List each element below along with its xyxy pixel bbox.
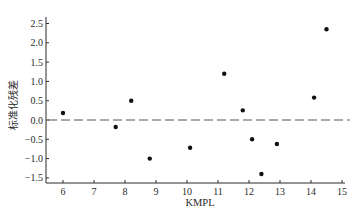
data-point <box>259 172 263 176</box>
data-point <box>275 142 279 146</box>
data-point <box>114 125 118 129</box>
y-tick-label: −1.0 <box>25 153 43 164</box>
y-tick-label: 0.5 <box>31 95 44 106</box>
data-points <box>61 27 329 176</box>
x-tick-label: 15 <box>337 186 347 197</box>
data-point <box>188 146 192 150</box>
y-tick-label: 1.0 <box>31 76 44 87</box>
y-tick-label: 2.0 <box>31 37 44 48</box>
x-tick-label: 8 <box>123 186 128 197</box>
y-axis: 2.52.01.51.00.50.0−0.5−1.0−1.5 <box>25 17 49 183</box>
x-tick-label: 12 <box>244 186 254 197</box>
residual-scatter-chart: 2.52.01.51.00.50.0−0.5−1.0−1.5 678910111… <box>0 0 358 216</box>
y-axis-label: 标准化残差 <box>7 80 19 130</box>
y-tick-label: −1.5 <box>25 172 43 183</box>
y-tick-label: 1.5 <box>31 57 44 68</box>
x-axis-label: KMPL <box>185 197 214 208</box>
y-tick-label: −0.5 <box>25 134 43 145</box>
data-point <box>312 95 316 99</box>
x-tick-label: 14 <box>306 186 316 197</box>
x-tick-label: 13 <box>275 186 285 197</box>
data-point <box>129 99 133 103</box>
x-tick-label: 9 <box>154 186 159 197</box>
x-axis: 6789101112131415 <box>46 180 347 197</box>
x-tick-label: 10 <box>182 186 192 197</box>
y-tick-label: 0.0 <box>31 115 44 126</box>
y-tick-label: 2.5 <box>31 18 44 29</box>
x-tick-label: 6 <box>61 186 66 197</box>
data-point <box>148 156 152 160</box>
data-point <box>222 71 226 75</box>
data-point <box>324 27 328 31</box>
data-point <box>241 108 245 112</box>
data-point <box>250 137 254 141</box>
data-point <box>61 111 65 115</box>
x-tick-label: 7 <box>92 186 97 197</box>
x-tick-label: 11 <box>213 186 223 197</box>
